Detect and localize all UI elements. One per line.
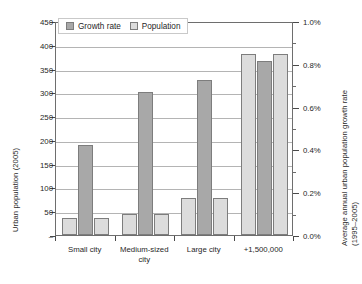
chart-legend: Growth rate Population xyxy=(58,18,188,34)
x-axis-category-label-line: Medium-sized xyxy=(120,245,169,254)
population-bar-left xyxy=(241,54,256,235)
population-bar-right xyxy=(94,218,109,235)
y-axis-left-tick-label: – xyxy=(19,232,53,241)
growth-rate-bar xyxy=(78,145,93,235)
y-axis-right-minor-tick xyxy=(293,129,296,130)
y-axis-right-tick-label: 0.4% xyxy=(303,146,337,155)
y-axis-left-tick-label: 200 xyxy=(19,136,53,145)
y-axis-left-tick-label: 450 xyxy=(19,18,53,27)
x-axis-category-label-line: Large city xyxy=(187,245,221,254)
legend-swatch-growth-rate-icon xyxy=(66,22,74,30)
y-axis-right-tick-mark xyxy=(293,65,299,66)
legend-label-population: Population xyxy=(142,22,181,31)
bar-chart: Urban population (2005) Average annual u… xyxy=(0,0,362,284)
y-axis-right-tick-mark xyxy=(293,22,299,23)
population-bar-left xyxy=(62,218,77,235)
x-axis-category-label: Large city xyxy=(174,245,234,255)
y-axis-right-tick-mark xyxy=(293,108,299,109)
y-axis-right-title-line1: Average annual urban population growth r… xyxy=(340,90,349,246)
x-axis-category-label: Small city xyxy=(55,245,115,255)
growth-rate-bar xyxy=(138,92,153,235)
y-axis-right-title-line2: (1995–2005) xyxy=(350,202,359,246)
x-axis-category-label: +1,500,000 xyxy=(234,245,294,255)
y-axis-right-tick-mark xyxy=(293,193,299,194)
plot-area xyxy=(55,22,293,236)
growth-rate-bar xyxy=(197,80,212,235)
population-bar-right xyxy=(154,214,169,235)
y-axis-right-tick-label: 0.2% xyxy=(303,189,337,198)
x-axis-tick-mark xyxy=(293,236,294,241)
y-axis-right-tick-label: 1.0% xyxy=(303,18,337,27)
y-axis-left-tick-label: 350 xyxy=(19,65,53,74)
gridline xyxy=(56,47,292,48)
y-axis-right-minor-tick xyxy=(293,215,296,216)
y-axis-right-tick-label: 0.6% xyxy=(303,103,337,112)
x-axis-category-label: Medium-sizedcity xyxy=(115,245,175,264)
legend-label-growth-rate: Growth rate xyxy=(78,22,121,31)
y-axis-right-minor-tick xyxy=(293,43,296,44)
y-axis-right-minor-tick xyxy=(293,172,296,173)
y-axis-right-tick-mark xyxy=(293,150,299,151)
y-axis-right-minor-tick xyxy=(293,86,296,87)
x-axis-category-label-line: city xyxy=(138,255,150,264)
population-bar-left xyxy=(122,214,137,235)
x-axis-tick-mark xyxy=(55,236,56,241)
y-axis-left-tick-label: 150 xyxy=(19,160,53,169)
y-axis-left-tick-label: 50 xyxy=(19,208,53,217)
population-bar-right xyxy=(273,54,288,235)
x-axis-category-label-line: +1,500,000 xyxy=(244,245,283,254)
x-axis-tick-mark xyxy=(234,236,235,241)
y-axis-left-tick-label: 250 xyxy=(19,113,53,122)
x-axis-tick-mark xyxy=(115,236,116,241)
legend-swatch-population-icon xyxy=(130,22,138,30)
x-axis-tick-mark xyxy=(174,236,175,241)
growth-rate-bar xyxy=(257,61,272,235)
x-axis-category-label-line: Small city xyxy=(68,245,101,254)
y-axis-left-tick-label: 300 xyxy=(19,89,53,98)
legend-entry-population: Population xyxy=(130,22,181,31)
y-axis-right-tick-label: 0.8% xyxy=(303,60,337,69)
y-axis-right-tick-label: 0.0% xyxy=(303,232,337,241)
population-bar-left xyxy=(181,198,196,235)
population-bar-right xyxy=(213,198,228,235)
y-axis-left-tick-label: 400 xyxy=(19,41,53,50)
y-axis-left-tick-label: 100 xyxy=(19,184,53,193)
legend-entry-growth-rate: Growth rate xyxy=(66,22,121,31)
